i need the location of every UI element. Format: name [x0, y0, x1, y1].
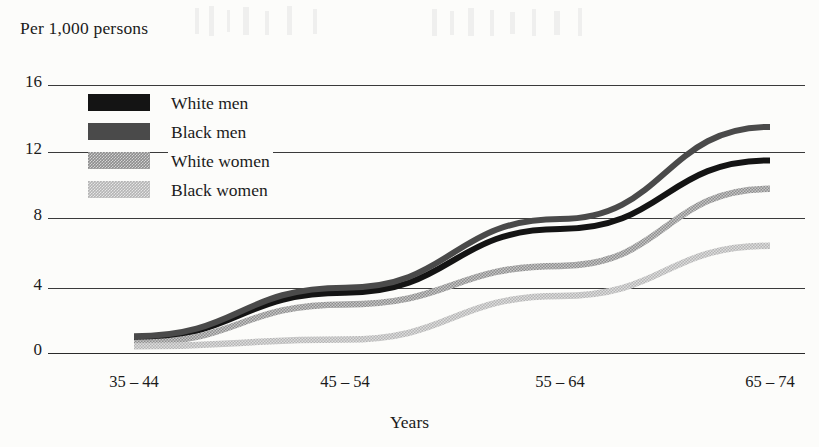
legend-swatch-white-men — [88, 94, 150, 111]
x-tick-45-54: 45 – 54 — [320, 372, 370, 392]
legend-item-black-women: Black women — [88, 175, 338, 204]
legend-swatch-black-women — [88, 181, 150, 198]
chart-legend: White men Black men White women Black wo… — [88, 88, 338, 204]
legend-item-white-men: White men — [88, 88, 338, 117]
legend-label-white-men: White men — [168, 93, 251, 113]
legend-label-black-women: Black women — [168, 180, 271, 200]
x-tick-35-44: 35 – 44 — [109, 372, 159, 392]
legend-label-white-women: White women — [168, 151, 273, 171]
legend-item-white-women: White women — [88, 146, 338, 175]
x-tick-65-74: 65 – 74 — [745, 372, 795, 392]
legend-label-black-men: Black men — [168, 122, 249, 142]
x-axis-title: Years — [0, 412, 819, 433]
legend-item-black-men: Black men — [88, 117, 338, 146]
x-tick-55-64: 55 – 64 — [535, 372, 585, 392]
legend-swatch-black-men — [88, 123, 150, 140]
legend-swatch-white-women — [88, 152, 150, 169]
